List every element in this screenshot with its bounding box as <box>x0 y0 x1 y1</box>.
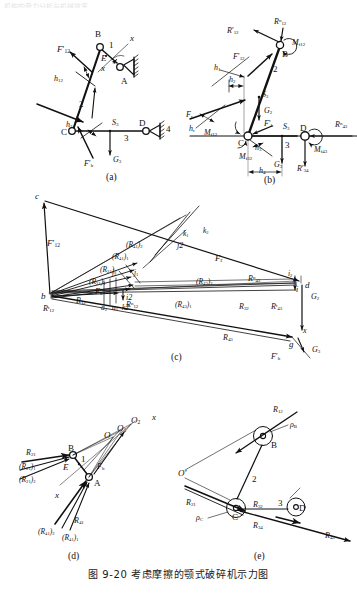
label-c-bracket-R21-1: (R21)1 <box>89 277 106 286</box>
label-a-link-2: 2 <box>79 99 84 109</box>
label-b-moment-Mf12-B: Mf12 <box>292 38 305 47</box>
label-a-link-3: 3 <box>124 133 129 143</box>
label-d-force-R41: R41 <box>74 516 84 525</box>
label-c-point-i2: i2 <box>288 269 292 278</box>
panel-e-art <box>185 412 350 541</box>
label-c-point-k1: k1 <box>183 229 189 238</box>
label-b-force-F12prime: F′12 <box>233 52 245 61</box>
label-b-moment-Mf43: Mf43 <box>314 145 327 154</box>
label-c-point-i: i <box>296 285 298 294</box>
label-e-link-3: 3 <box>278 498 283 508</box>
label-c-bracket-R41-2: (R41)2 <box>126 240 143 249</box>
label-c-point-d: d <box>305 280 310 290</box>
label-d-center-O: O <box>104 430 111 440</box>
label-d-link-1: 1 <box>81 454 86 464</box>
label-b-force-G3: G3 <box>274 160 282 169</box>
panel-c-art <box>44 201 310 358</box>
panel-d-art <box>20 421 135 530</box>
label-e-force-R43: R43 <box>325 531 335 540</box>
label-a-dim-h3: h3 <box>66 120 72 129</box>
label-d-force-Fb: Fb <box>97 462 104 471</box>
label-c-point-c: c <box>35 191 39 201</box>
label-a-joint-A: A <box>121 76 128 86</box>
label-b-force-Fr: Fr <box>186 110 193 119</box>
label-c-bracket-R43-1: (R43)1 <box>175 300 192 309</box>
label-b-dim-h4: h4 <box>259 166 265 175</box>
label-a-point-E: E <box>101 53 107 63</box>
label-b-force-R12n: Rn12 <box>274 17 286 26</box>
label-a-axis-x-1: x <box>130 33 134 43</box>
panel-label-d: (d) <box>68 551 79 561</box>
label-e-rho-B: ρB <box>290 420 297 429</box>
figure-caption: 图 9-20 考虑摩擦的颚式破碎机示力图 <box>0 566 357 581</box>
label-c-vector-R43t: Rt43 <box>271 302 282 311</box>
label-b-dim-hr: hr <box>189 124 195 133</box>
label-d-point-E: E <box>63 462 69 472</box>
label-c-vector-R12: R12 <box>76 296 86 305</box>
label-c-bracket-R43-2: (R43)2 <box>196 277 213 286</box>
label-b-dim-h3: h3 <box>255 143 261 152</box>
label-d-center-O2: O2 <box>131 415 140 425</box>
label-c-point-a2: a2 <box>101 303 107 312</box>
panel-b-art <box>190 28 357 176</box>
label-b-force-R34prime: R′34 <box>297 164 309 173</box>
label-b-joint-D: D <box>300 123 307 133</box>
label-d-force-R21: R21 <box>26 448 36 457</box>
label-a-joint-B: B <box>95 29 101 39</box>
label-e-pole-Oprime: O' <box>178 468 186 478</box>
label-c-vector-R32: R32 <box>239 302 249 311</box>
panel-label-b: (b) <box>264 175 275 185</box>
label-e-force-R34: R34 <box>253 521 263 530</box>
label-c-vector-G2: G2 <box>311 292 319 301</box>
label-d-joint-A: A <box>94 478 101 488</box>
label-e-joint-D: D <box>299 503 306 513</box>
label-c-bracket-R21-2: (R21)2 <box>100 265 117 274</box>
label-e-link-2: 2 <box>252 474 257 484</box>
label-e-force-R32: R32 <box>253 500 263 509</box>
label-b-dim-h2: h2 <box>229 75 235 84</box>
label-b-joint-C: C <box>238 138 244 148</box>
label-a-dim-h12: h12 <box>54 74 63 83</box>
label-c-vector-F12prime: F′12 <box>47 238 60 248</box>
label-b-force-Fbprime: F′b <box>264 119 273 128</box>
label-c-vector-R43: R43 <box>223 333 233 342</box>
label-c-bracket-R41-1: (R41)1 <box>112 252 129 261</box>
panel-label-e: (e) <box>254 551 265 561</box>
label-d-axis-x-1: x <box>152 412 156 422</box>
label-b-moment-Mf12-C: Mf12 <box>204 128 217 137</box>
label-b-force-R12prime: R′12 <box>227 26 239 35</box>
label-b-dim-h1: h1 <box>214 63 220 72</box>
label-b-link-2: 2 <box>273 64 278 74</box>
label-c-point-k: j2 <box>177 241 183 250</box>
label-c-point-g: g <box>289 339 294 349</box>
label-c-vector-R43n: Rn43 <box>248 274 260 283</box>
label-d-bracket-R21-2: (R21)2 <box>19 475 36 484</box>
label-b-force-R43n: Rn43 <box>335 120 347 129</box>
label-b-point-S2: S2 <box>262 90 268 99</box>
panel-label-a: (a) <box>106 172 117 182</box>
label-b-joint-B: B <box>282 49 288 59</box>
label-c-vector-R12n: Rn12 <box>126 300 138 309</box>
label-c-point-j1: j1 <box>134 268 138 277</box>
label-a-force-G3: G3 <box>113 155 121 164</box>
label-e-rho-C: ρC <box>196 513 203 522</box>
panel-label-c: (c) <box>171 352 182 362</box>
label-b-moment-Mf32: Mf32 <box>239 152 252 161</box>
label-c-vector-Fbprime: F′b <box>271 352 280 361</box>
label-d-joint-B: B <box>68 443 74 453</box>
label-c-vector-Fr: Fr <box>215 253 222 263</box>
label-c-point-b: b <box>41 291 46 301</box>
label-c-point-i1: i1 <box>293 277 297 286</box>
label-a-force-F12prime: F′12 <box>57 44 70 54</box>
label-a-joint-D: D <box>139 118 146 128</box>
label-a-axis-x-2: x <box>101 63 105 73</box>
label-e-joint-C: C <box>232 512 238 522</box>
label-b-force-G2: G2 <box>264 106 272 115</box>
label-c-point-k2: k2 <box>203 226 209 235</box>
label-c-vector-Fb: Fb <box>95 287 102 296</box>
label-e-joint-B: B <box>271 440 277 450</box>
label-d-center-O1: O1 <box>117 423 126 433</box>
label-d-axis-x-2: x <box>55 490 59 500</box>
label-c-vector-R12t: Rt12 <box>43 304 54 313</box>
label-d-bracket-R41-2: (R41)2 <box>38 527 55 536</box>
